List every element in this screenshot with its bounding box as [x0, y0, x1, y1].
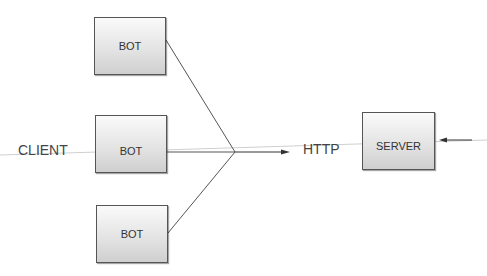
client-label: CLIENT: [18, 142, 68, 158]
bot-label: BOT: [119, 40, 142, 52]
server-box: SERVER: [362, 112, 435, 170]
bot-box-bottom: BOT: [96, 205, 168, 263]
bot-box-top: BOT: [94, 17, 166, 75]
bot-label: BOT: [121, 228, 144, 240]
bot-box-middle: BOT: [95, 115, 167, 173]
server-label: SERVER: [376, 140, 421, 152]
http-label: HTTP: [303, 141, 340, 157]
bot-label: BOT: [120, 145, 143, 157]
